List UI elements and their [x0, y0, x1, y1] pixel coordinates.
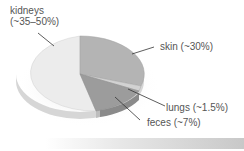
label-kidneys: kidneys (~35–50%): [10, 5, 59, 27]
label-lungs: lungs (~1.5%): [166, 102, 228, 113]
leader-kidneys: [38, 33, 54, 46]
gradient-bar: [45, 138, 244, 149]
leader-skin: [132, 47, 154, 54]
label-skin: skin (~30%): [160, 41, 213, 52]
label-kidneys-value: (~35–50%): [10, 16, 59, 27]
pie-side-lungs: [96, 110, 100, 118]
label-kidneys-name: kidneys: [10, 5, 59, 16]
label-feces: feces (~7%): [147, 117, 201, 128]
